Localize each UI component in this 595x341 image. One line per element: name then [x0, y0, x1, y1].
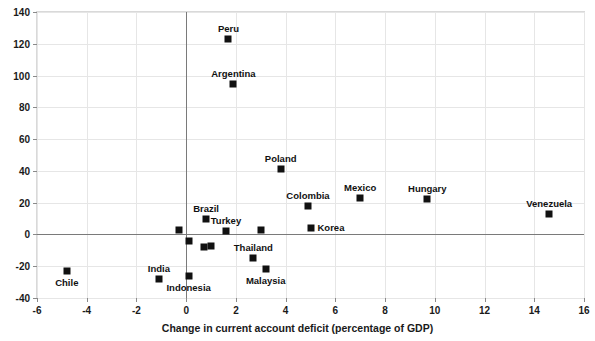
data-point[interactable]: [200, 244, 207, 251]
x-axis-tick-label: 14: [529, 305, 540, 316]
data-point-label: Korea: [318, 223, 345, 233]
data-point-peru[interactable]: [225, 36, 232, 43]
data-point[interactable]: [257, 226, 264, 233]
data-point[interactable]: [185, 237, 192, 244]
data-point-label: Mexico: [344, 182, 376, 192]
x-zero-axis-line: [186, 12, 187, 298]
data-point-india[interactable]: [155, 275, 162, 282]
x-axis-tick-label: 10: [429, 305, 440, 316]
data-point-label: Chile: [55, 278, 78, 288]
data-point-thailand[interactable]: [250, 255, 257, 262]
data-point-malaysia[interactable]: [262, 266, 269, 273]
x-gridline: [236, 12, 237, 298]
data-point-label: Colombia: [286, 190, 329, 200]
x-axis-tick-label: 12: [479, 305, 490, 316]
x-gridline: [37, 12, 38, 298]
data-point-brazil[interactable]: [203, 215, 210, 222]
y-gridline: [37, 76, 584, 77]
y-axis-tick-label: 80: [19, 102, 30, 113]
x-axis-tick-label: 16: [578, 305, 589, 316]
y-axis-tick-label: 120: [13, 38, 30, 49]
data-point-hungary[interactable]: [424, 196, 431, 203]
x-gridline: [385, 12, 386, 298]
data-point-indonesia[interactable]: [185, 272, 192, 279]
y-axis-tick-label: -20: [16, 261, 30, 272]
x-axis-tick: [584, 298, 585, 302]
y-axis-tick-label: 20: [19, 197, 30, 208]
y-gridline: [37, 107, 584, 108]
data-point-label: Poland: [265, 154, 297, 164]
y-axis-tick-label: 100: [13, 70, 30, 81]
x-axis-tick: [534, 298, 535, 302]
x-axis-tick-label: 8: [382, 305, 388, 316]
data-point-argentina[interactable]: [230, 80, 237, 87]
data-point-label: Hungary: [408, 184, 447, 194]
x-axis-tick: [385, 298, 386, 302]
y-gridline: [37, 266, 584, 267]
x-gridline: [87, 12, 88, 298]
x-axis-tick-label: 2: [233, 305, 239, 316]
x-axis-tick: [87, 298, 88, 302]
scatter-chart: -40-20020406080100120140-6-4-20246810121…: [0, 0, 595, 341]
x-gridline: [435, 12, 436, 298]
y-axis-tick-label: 140: [13, 7, 30, 18]
data-point-mexico[interactable]: [357, 194, 364, 201]
y-axis-tick-label: 40: [19, 165, 30, 176]
x-axis-tick-label: 6: [333, 305, 339, 316]
data-point-label: Turkey: [211, 216, 241, 226]
x-axis-tick-label: 0: [183, 305, 189, 316]
x-axis-tick: [136, 298, 137, 302]
data-point-label: Malaysia: [246, 276, 286, 286]
y-gridline: [37, 298, 584, 299]
y-axis-tick-label: 0: [24, 229, 30, 240]
plot-area: -40-20020406080100120140-6-4-20246810121…: [36, 11, 585, 299]
x-axis-tick: [485, 298, 486, 302]
y-gridline: [37, 44, 584, 45]
x-gridline: [136, 12, 137, 298]
x-gridline: [584, 12, 585, 298]
x-gridline: [335, 12, 336, 298]
x-axis-tick: [335, 298, 336, 302]
x-axis-tick: [286, 298, 287, 302]
x-axis-tick: [236, 298, 237, 302]
data-point-label: India: [148, 263, 170, 273]
data-point[interactable]: [175, 226, 182, 233]
x-axis-tick-label: -6: [33, 305, 42, 316]
y-gridline: [37, 12, 584, 13]
data-point-label: Brazil: [193, 203, 219, 213]
data-point-label: Peru: [218, 24, 239, 34]
data-point-turkey[interactable]: [222, 228, 229, 235]
data-point-korea[interactable]: [307, 225, 314, 232]
y-zero-axis-line: [37, 234, 584, 235]
x-axis-tick-label: -2: [132, 305, 141, 316]
y-gridline: [37, 139, 584, 140]
x-axis-tick-label: 4: [283, 305, 289, 316]
x-axis-tick: [435, 298, 436, 302]
data-point-label: Venezuela: [526, 198, 572, 208]
data-point-label: Argentina: [211, 68, 255, 78]
x-axis-title: Change in current account deficit (perce…: [0, 322, 595, 334]
x-axis-tick-label: -4: [82, 305, 91, 316]
data-point-label: Thailand: [234, 243, 273, 253]
x-gridline: [534, 12, 535, 298]
data-point-poland[interactable]: [277, 166, 284, 173]
x-axis-tick: [37, 298, 38, 302]
x-axis-tick: [186, 298, 187, 302]
data-point[interactable]: [208, 242, 215, 249]
y-gridline: [37, 171, 584, 172]
y-axis-tick-label: -40: [16, 293, 30, 304]
data-point-label: Indonesia: [166, 283, 210, 293]
data-point-chile[interactable]: [63, 267, 70, 274]
data-point-colombia[interactable]: [305, 202, 312, 209]
y-axis-tick-label: 60: [19, 134, 30, 145]
x-gridline: [485, 12, 486, 298]
data-point-venezuela[interactable]: [546, 210, 553, 217]
